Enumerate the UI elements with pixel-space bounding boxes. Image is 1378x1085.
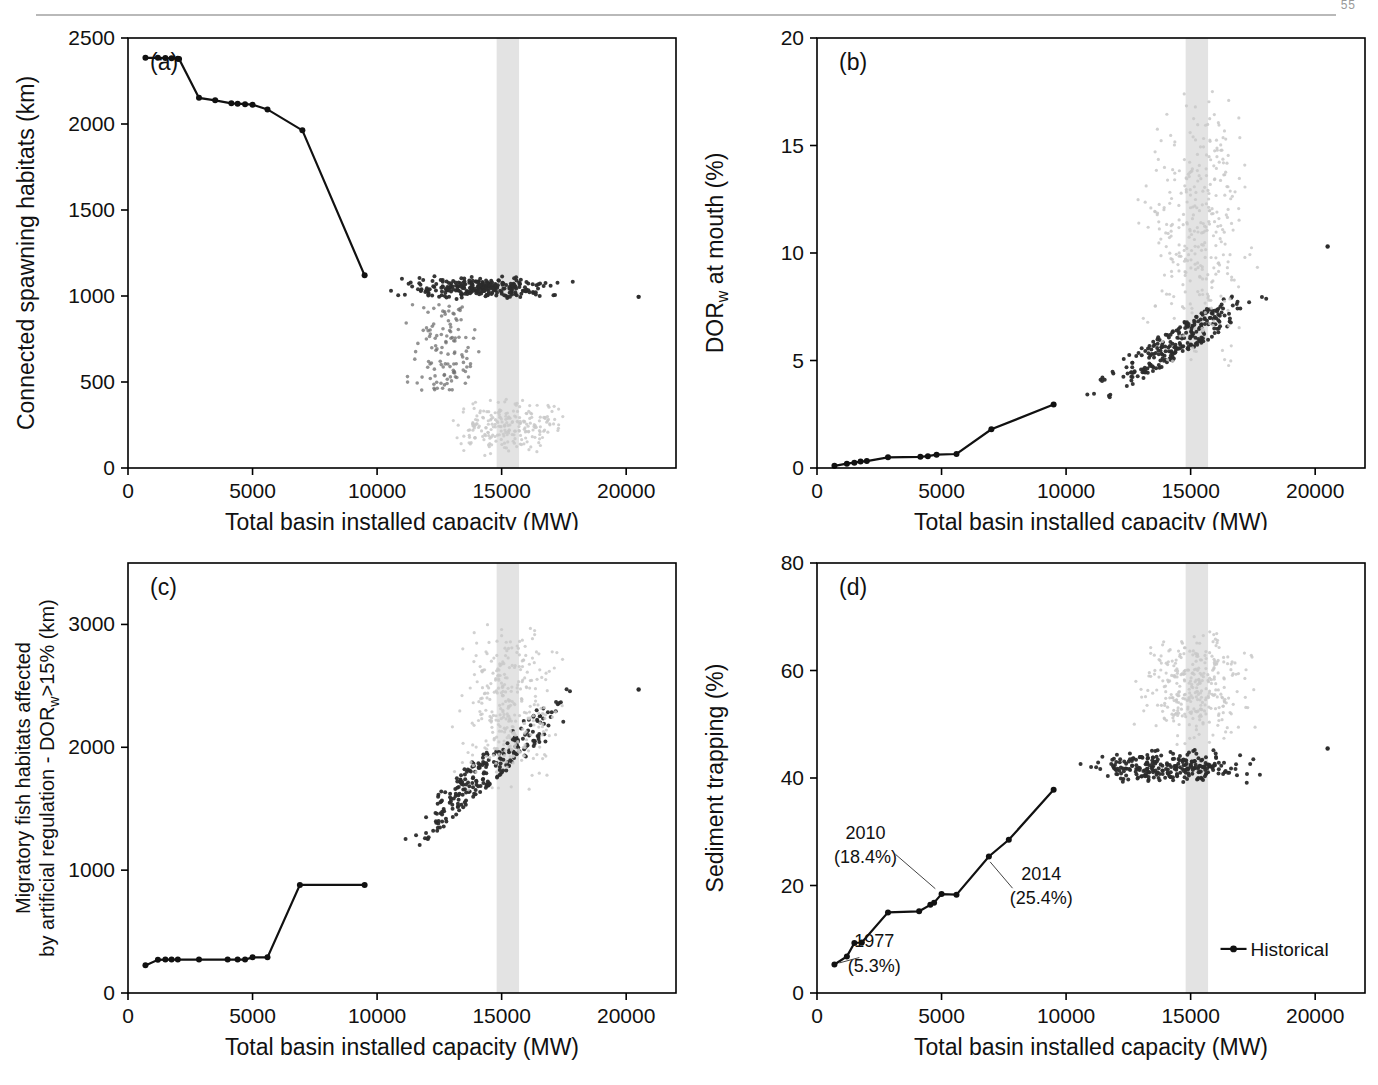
scatter-point xyxy=(1085,393,1089,397)
scatter-point xyxy=(543,753,546,756)
scatter-point xyxy=(444,817,448,821)
scatter-point xyxy=(1151,692,1154,695)
scatter-point xyxy=(1209,256,1212,259)
historical-marker xyxy=(1051,402,1057,408)
scatter-point xyxy=(488,782,492,786)
scatter-point xyxy=(1222,656,1225,659)
scatter-point xyxy=(420,375,424,379)
scatter-point xyxy=(1258,773,1262,777)
scatter-point xyxy=(1205,202,1208,205)
scatter-point xyxy=(1221,158,1224,161)
scatter-point xyxy=(551,650,554,653)
scatter-point xyxy=(1201,268,1204,271)
scatter-point xyxy=(513,713,516,716)
scatter-point xyxy=(538,437,541,440)
scatter-point xyxy=(512,409,515,412)
y-tick-label: 2000 xyxy=(68,112,115,135)
scatter-point xyxy=(1176,714,1179,717)
scatter-point xyxy=(1174,768,1178,772)
scatter-point xyxy=(467,784,471,788)
scatter-point xyxy=(508,291,512,295)
scatter-point xyxy=(1243,163,1246,166)
scatter-point xyxy=(504,690,507,693)
scatter-point xyxy=(1223,129,1226,132)
scatter-point xyxy=(1200,231,1203,234)
scatter-point xyxy=(1189,302,1192,305)
scatter-point xyxy=(1180,192,1183,195)
scatter-point xyxy=(465,349,469,353)
scatter-point xyxy=(469,686,472,689)
scatter-point xyxy=(546,724,550,728)
scatter-point xyxy=(1256,266,1259,269)
scatter-point xyxy=(529,422,532,425)
scatter-point xyxy=(523,428,526,431)
scatter-point xyxy=(453,371,457,375)
scatter-point xyxy=(1216,639,1219,642)
scatter-point xyxy=(1198,209,1201,212)
scatter-point xyxy=(1169,333,1173,337)
scatter-point xyxy=(484,782,488,786)
scatter-point xyxy=(1227,696,1230,699)
scatter-point xyxy=(454,362,458,366)
scatter-point xyxy=(1180,703,1183,706)
scatter-point xyxy=(509,640,512,643)
scatter-point xyxy=(519,668,522,671)
scatter-point xyxy=(427,835,431,839)
scatter-point xyxy=(449,800,453,804)
scatter-point xyxy=(1221,136,1224,139)
scatter-point xyxy=(530,416,533,419)
scatter-point xyxy=(528,710,531,713)
scatter-point xyxy=(1213,113,1216,116)
scatter-point xyxy=(1211,279,1214,282)
scatter-point xyxy=(1238,177,1241,180)
scatter-point xyxy=(504,749,507,752)
scatter-point xyxy=(1196,169,1199,172)
scatter-point xyxy=(1325,244,1329,248)
scatter-point xyxy=(506,687,509,690)
scatter-point xyxy=(446,352,450,356)
scatter-point xyxy=(1169,750,1173,754)
scatter-point xyxy=(451,807,455,811)
scatter-point xyxy=(530,774,533,777)
scatter-point xyxy=(479,409,482,412)
scatter-point xyxy=(1205,687,1208,690)
scatter-point xyxy=(498,704,501,707)
x-tick-label: 15000 xyxy=(472,1004,530,1027)
scatter-point xyxy=(1189,258,1192,261)
scatter-point xyxy=(513,437,516,440)
scatter-point xyxy=(1203,654,1206,657)
scatter-point xyxy=(527,448,530,451)
panel-a: 0500010000150002000005001000150020002500… xyxy=(0,18,689,530)
scatter-point xyxy=(494,714,497,717)
scatter-point xyxy=(1210,307,1213,310)
historical-marker xyxy=(362,882,368,888)
scatter-point xyxy=(1157,766,1161,770)
scatter-point xyxy=(1201,288,1204,291)
scatter-point xyxy=(511,725,514,728)
scatter-point xyxy=(487,434,490,437)
scatter-point xyxy=(1177,226,1180,229)
scatter-point xyxy=(1170,674,1173,677)
scatter-point xyxy=(1166,771,1170,775)
scatter-point xyxy=(1230,222,1233,225)
scatter-point xyxy=(1207,680,1210,683)
scatter-point xyxy=(1220,696,1223,699)
scatter-point xyxy=(1193,759,1197,763)
scatter-point xyxy=(1118,760,1122,764)
scatter-point xyxy=(546,689,549,692)
scatter-point xyxy=(561,658,564,661)
x-tick-label: 20000 xyxy=(1286,1004,1344,1027)
scatter-point xyxy=(1234,762,1238,766)
scatter-point xyxy=(1170,270,1173,273)
scatter-point xyxy=(404,837,408,841)
scatter-point xyxy=(514,279,518,283)
scatter-point xyxy=(483,668,486,671)
scatter-point xyxy=(521,639,524,642)
legend[interactable]: Historical xyxy=(1221,939,1329,960)
scatter-point xyxy=(1173,140,1176,143)
scatter-point xyxy=(1139,367,1143,371)
historical-line-group xyxy=(831,402,1056,469)
scatter-point xyxy=(1160,662,1163,665)
scatter-point xyxy=(1210,286,1213,289)
scatter-point xyxy=(504,768,508,772)
